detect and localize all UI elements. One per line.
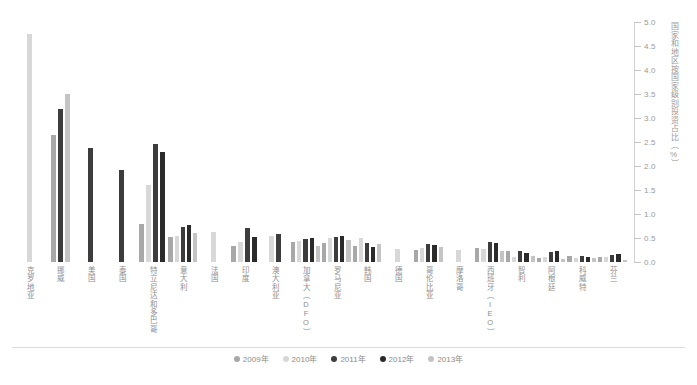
legend-item[interactable]: 2012年 bbox=[380, 353, 415, 364]
category-label: 罗马尼亚 bbox=[332, 266, 340, 300]
bar-group bbox=[260, 22, 291, 262]
category-labels: 克罗地亚挪威美国泰国特立尼达和多巴哥意大利法国印度澳大利亚加拿大（DFO）罗马尼… bbox=[14, 266, 628, 328]
bar bbox=[549, 252, 553, 262]
bar bbox=[359, 238, 363, 262]
y-axis-tick-label: 2.5 bbox=[644, 138, 656, 147]
legend-item[interactable]: 2013年 bbox=[428, 353, 463, 364]
bar bbox=[346, 240, 350, 262]
bar bbox=[58, 109, 63, 262]
bar bbox=[51, 135, 56, 262]
bar-group bbox=[566, 22, 597, 262]
bar bbox=[252, 237, 257, 262]
bar-group bbox=[229, 22, 260, 262]
chart-page: 国家和地区按国家级别投资占比（%） 克罗地亚挪威美国泰国特立尼达和多巴哥意大利法… bbox=[0, 0, 697, 385]
category-label-cell: 科威特 bbox=[566, 266, 597, 291]
y-axis-tick bbox=[634, 190, 641, 191]
bar bbox=[175, 236, 179, 262]
legend-item[interactable]: 2011年 bbox=[331, 353, 365, 364]
bar-group bbox=[413, 22, 444, 262]
bar bbox=[567, 256, 571, 262]
y-axis-tick bbox=[634, 70, 641, 71]
category-label: 德国 bbox=[394, 266, 402, 283]
bar bbox=[334, 237, 338, 262]
legend-swatch-icon bbox=[331, 356, 337, 362]
bar bbox=[269, 236, 274, 262]
bar bbox=[193, 233, 197, 262]
category-label: 科威特 bbox=[578, 266, 586, 291]
category-label: 加拿大（DFO） bbox=[302, 266, 310, 336]
y-axis-tick bbox=[634, 94, 641, 95]
plot-area bbox=[14, 22, 628, 262]
y-axis-tick-label: 5.0 bbox=[644, 18, 656, 27]
y-axis-tick-label: 3.5 bbox=[644, 90, 656, 99]
bar bbox=[555, 251, 559, 262]
legend-item[interactable]: 2009年 bbox=[234, 353, 269, 364]
bar bbox=[432, 245, 436, 262]
bar bbox=[291, 242, 295, 262]
y-axis-tick-label: 0.0 bbox=[644, 258, 656, 267]
category-label-cell: 挪威 bbox=[45, 266, 76, 283]
category-label: 印度 bbox=[240, 266, 248, 283]
bar bbox=[586, 257, 590, 262]
category-label-cell: 芬兰 bbox=[597, 266, 628, 283]
y-axis-tick bbox=[634, 22, 641, 23]
bar bbox=[537, 258, 541, 262]
bar bbox=[231, 246, 236, 262]
bar bbox=[353, 246, 357, 262]
bar-group bbox=[352, 22, 383, 262]
bar bbox=[168, 237, 172, 262]
bar bbox=[303, 239, 307, 262]
category-label: 泰国 bbox=[117, 266, 125, 283]
bar-group bbox=[167, 22, 198, 262]
category-label-cell: 印度 bbox=[229, 266, 260, 283]
bar bbox=[414, 250, 418, 262]
bar bbox=[371, 247, 375, 262]
bar bbox=[340, 236, 344, 262]
bar bbox=[475, 248, 479, 262]
category-label: 西班牙（IEO） bbox=[486, 266, 494, 336]
category-label: 挪威 bbox=[56, 266, 64, 283]
category-label-cell: 特立尼达和多巴哥 bbox=[137, 266, 168, 333]
bar-group bbox=[106, 22, 137, 262]
y-axis-tick-label: 4.5 bbox=[644, 42, 656, 51]
category-label-cell: 法国 bbox=[198, 266, 229, 283]
legend-label: 2009年 bbox=[243, 353, 269, 364]
bar bbox=[426, 244, 430, 262]
bar bbox=[580, 256, 584, 262]
legend-label: 2012年 bbox=[389, 353, 415, 364]
bar-group bbox=[444, 22, 475, 262]
bar bbox=[119, 170, 124, 262]
bar bbox=[297, 241, 301, 262]
legend-swatch-icon bbox=[283, 356, 289, 362]
category-label: 美国 bbox=[87, 266, 95, 283]
bar bbox=[561, 259, 565, 262]
bar-group bbox=[14, 22, 45, 262]
chart-legend: 2009年2010年2011年2012年2013年 bbox=[0, 353, 697, 364]
bar bbox=[598, 257, 602, 262]
bar bbox=[276, 234, 281, 262]
y-axis-tick-label: 2.0 bbox=[644, 162, 656, 171]
y-axis-tick bbox=[634, 118, 641, 119]
bar bbox=[160, 152, 165, 262]
bar bbox=[543, 257, 547, 262]
bar bbox=[310, 238, 314, 262]
category-label-cell: 韩国 bbox=[352, 266, 383, 283]
bar bbox=[322, 243, 326, 262]
bar bbox=[531, 256, 535, 262]
bar bbox=[365, 243, 369, 262]
legend-label: 2010年 bbox=[292, 353, 318, 364]
category-label: 特立尼达和多巴哥 bbox=[148, 266, 156, 333]
bar bbox=[610, 255, 614, 262]
bar bbox=[27, 34, 32, 262]
category-label: 意大利 bbox=[179, 266, 187, 291]
bar-group bbox=[597, 22, 628, 262]
bar bbox=[146, 185, 151, 262]
bar-group bbox=[137, 22, 168, 262]
bar-group bbox=[382, 22, 413, 262]
category-label: 芬兰 bbox=[608, 266, 616, 283]
legend-item[interactable]: 2010年 bbox=[283, 353, 318, 364]
category-label-cell: 西班牙（IEO） bbox=[474, 266, 505, 336]
category-label-cell: 美国 bbox=[75, 266, 106, 283]
bar-group bbox=[536, 22, 567, 262]
category-label-cell: 阿根廷 bbox=[536, 266, 567, 291]
